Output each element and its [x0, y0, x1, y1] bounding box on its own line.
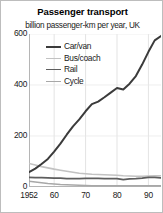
legend-label: Rail [64, 64, 77, 76]
legend-swatch-line-icon [46, 46, 61, 48]
chart-legend: Car/vanBus/coachRailCycle [46, 41, 126, 87]
chart-title: Passenger transport [1, 6, 163, 17]
legend-swatch-line-icon [46, 69, 61, 70]
legend-item: Cycle [46, 76, 126, 88]
y-tick-label: 200 [1, 131, 27, 140]
legend-swatch-line-icon [46, 58, 61, 59]
y-tick-label: 400 [1, 80, 27, 89]
series-line-cycle [29, 181, 161, 186]
y-tick-label: 0 [1, 182, 27, 191]
legend-item: Rail [46, 64, 126, 76]
legend-label: Bus/coach [64, 53, 100, 65]
legend-item: Car/van [46, 41, 126, 53]
y-tick-label: 600 [1, 29, 27, 38]
legend-item: Bus/coach [46, 53, 126, 65]
chart-subtitle: billion passenger-km per year, UK [1, 21, 163, 30]
legend-label: Car/van [64, 41, 91, 53]
chart-figure: Passenger transport billion passenger-km… [0, 0, 163, 213]
x-tick-label: 60 [37, 190, 71, 200]
legend-label: Cycle [64, 76, 83, 88]
x-tick-label: 70 [69, 190, 103, 200]
x-tick-label: 80 [100, 190, 134, 200]
series-line-bus-coach [29, 164, 161, 177]
x-tick-label: 90 [131, 190, 163, 200]
series-line-rail [29, 177, 161, 179]
x-tick-label: 1952 [12, 190, 46, 200]
legend-swatch-line-icon [46, 81, 61, 82]
